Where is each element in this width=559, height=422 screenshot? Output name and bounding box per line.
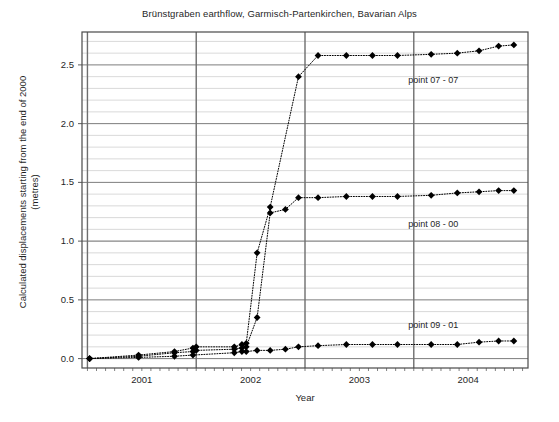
y-axis-tick-1.0: 1.0 [40, 236, 74, 246]
plot-area [0, 0, 559, 422]
x-axis-tick-2002: 2002 [216, 375, 286, 385]
series-annotation-point-08---00: point 08 - 00 [408, 219, 458, 229]
y-axis-tick-2.5: 2.5 [40, 60, 74, 70]
y-axis-tick-0.5: 0.5 [40, 295, 74, 305]
x-axis-label: Year [82, 392, 528, 403]
y-axis-tick-1.5: 1.5 [40, 177, 74, 187]
chart-figure: Brünstgraben earthflow, Garmisch-Partenk… [0, 0, 559, 422]
x-axis-tick-2004: 2004 [433, 375, 503, 385]
series-annotation-point-07---07: point 07 - 07 [408, 75, 458, 85]
x-axis-tick-2001: 2001 [107, 375, 177, 385]
y-axis-tick-0.0: 0.0 [40, 354, 74, 364]
series-annotation-point-09---01: point 09 - 01 [408, 320, 458, 330]
y-axis-tick-2.0: 2.0 [40, 119, 74, 129]
x-axis-tick-2003: 2003 [324, 375, 394, 385]
chart-title: Brünstgraben earthflow, Garmisch-Partenk… [0, 8, 559, 19]
